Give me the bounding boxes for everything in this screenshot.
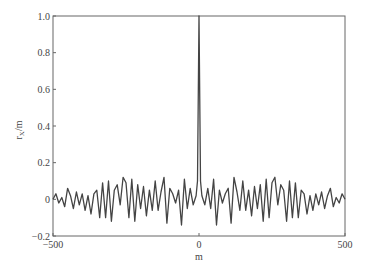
- y-tick-label: 0.2: [38, 157, 51, 168]
- autocorrelation-chart: −0.200.20.40.60.81.0 −5000500 m rX/m: [0, 0, 365, 274]
- y-tick-label: 0: [45, 194, 50, 205]
- y-tick-label: 0.4: [38, 121, 51, 132]
- y-tick-label: 1.0: [38, 11, 51, 22]
- autocorrelation-line: [53, 16, 345, 225]
- x-tick-label: 500: [338, 239, 353, 250]
- x-axis-label: m: [195, 251, 203, 262]
- y-axis-ticks: −0.200.20.40.60.81.0: [32, 11, 56, 242]
- x-tick-label: −500: [43, 239, 64, 250]
- y-axis-label: rX/m: [13, 120, 26, 139]
- x-tick-label: 0: [197, 239, 202, 250]
- y-tick-label: 0.6: [38, 84, 51, 95]
- y-tick-label: 0.8: [38, 47, 51, 58]
